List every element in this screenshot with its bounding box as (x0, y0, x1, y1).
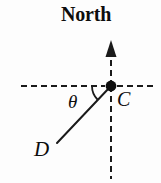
point-c-label: C (117, 89, 130, 109)
bearing-diagram-figure: ) North C D θ (0, 0, 161, 183)
angle-theta-label: θ (68, 92, 77, 111)
diagram-canvas (0, 0, 161, 183)
angle-arc-theta (92, 86, 98, 100)
point-d-label: D (34, 139, 49, 160)
north-label: North (61, 4, 111, 24)
point-c-marker (106, 81, 117, 92)
north-arrowhead-icon (106, 40, 117, 57)
bearing-line-cd (57, 87, 110, 143)
